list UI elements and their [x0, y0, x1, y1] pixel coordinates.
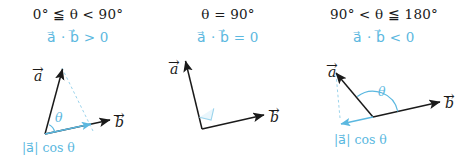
panel-acute-angle: 0° ≦ θ < 90° a⃗ · b⃗ > 0 →a	[0, 0, 156, 159]
right-angle-marker	[199, 108, 213, 120]
angle-arc-acute	[49, 125, 54, 132]
vector-a-label-acute: →a	[32, 62, 44, 90]
vector-b-label-obtuse: →b	[443, 89, 455, 117]
vector-b-arrow-obtuse	[373, 102, 440, 117]
projection-drop-line-acute	[62, 68, 93, 131]
projection-segment-obtuse	[341, 117, 373, 124]
vector-a-label-right: →a	[168, 55, 180, 83]
diagram-acute	[0, 0, 156, 159]
vector-a-label-obtuse: →a	[326, 58, 338, 86]
panel-obtuse-angle: 90° < θ ≦ 180° a⃗ · b⃗ < 0 →a	[300, 0, 468, 159]
vector-dot-product-figure: 0° ≦ θ < 90° a⃗ · b⃗ > 0 →a	[0, 0, 468, 159]
vector-b-label-acute: →b	[113, 108, 125, 136]
projection-segment-acute	[45, 124, 91, 134]
projection-label-obtuse: |a⃗| cos θ	[334, 134, 387, 147]
panel-right-angle: θ = 90° a⃗ · b⃗ = 0 →a →b	[156, 0, 300, 159]
vector-b-label-right: →b	[268, 103, 280, 131]
vector-a-arrow-obtuse	[336, 73, 373, 117]
angle-label-acute: θ	[55, 112, 63, 125]
angle-label-obtuse: θ	[378, 86, 386, 99]
projection-label-acute: |a⃗| cos θ	[22, 142, 75, 155]
vector-a-arrow-right	[186, 61, 203, 129]
